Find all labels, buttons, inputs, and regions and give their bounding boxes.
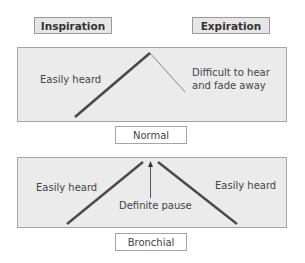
normal-expiration-line — [150, 53, 185, 92]
normal-inspiration-line — [75, 53, 150, 117]
bronchial-expiration-line — [158, 162, 237, 224]
bronchial-inspiration-line — [67, 162, 143, 224]
sound-lines — [0, 0, 305, 263]
arrow-head-icon — [148, 161, 153, 167]
